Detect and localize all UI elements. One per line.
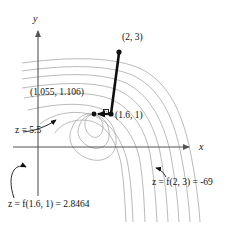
contour-figure: y x (2, 3) (1.6, 1) (1.055, 1.106) z = 5… [0,0,238,225]
step-line [111,53,119,114]
annotation-inner-contour-value: z = 5.5 [15,126,41,136]
point-label-start: (2, 3) [122,33,143,43]
gradient-arrow [92,110,110,117]
contour-level-inner-3 [85,115,103,138]
point-marker-start [116,49,121,54]
y-axis-label: y [33,13,37,24]
contour-lines [22,59,200,222]
annotation-start-function-value: z = f(2, 3) = -69 [152,178,213,188]
x-axis-label: x [199,141,203,152]
point-label-minimum: (1.055, 1.106) [30,88,84,98]
contour-level-inner-2 [78,114,109,148]
annotation-end-function-value: z = f(1.6, 1) = 2.8464 [8,200,89,210]
leader-arrow-end-value [11,166,26,198]
descent-step-segment [108,49,121,116]
point-marker-minimum [92,112,97,117]
point-label-end: (1.6, 1) [115,111,143,121]
leader-arrow-start-value [156,168,166,177]
contour-level-outer-1 [22,59,200,222]
